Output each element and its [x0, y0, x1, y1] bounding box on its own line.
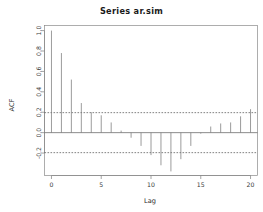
- x-tick-label: 15: [197, 181, 205, 188]
- y-axis: -0.20.00.20.40.60.81.0: [35, 26, 45, 159]
- x-tick-label: 10: [147, 181, 155, 188]
- x-tick-label: 0: [49, 181, 53, 188]
- y-axis-title: ACF: [8, 98, 16, 111]
- y-tick-label: 0.0: [35, 128, 42, 138]
- x-tick-label: 20: [247, 181, 255, 188]
- acf-plot-svg: Series ar.sim ACF Lag -0.20.00.20.40.60.…: [0, 0, 263, 212]
- plot-title: Series ar.sim: [100, 6, 163, 16]
- y-tick-label: 0.2: [35, 107, 42, 117]
- y-tick-label: 0.6: [35, 66, 42, 76]
- y-tick-label: 1.0: [35, 26, 42, 36]
- x-axis: 05101520: [49, 176, 254, 188]
- x-tick-label: 5: [99, 181, 103, 188]
- y-tick-label: 0.8: [35, 46, 42, 56]
- acf-bars: [51, 31, 250, 172]
- acf-plot-canvas: Series ar.sim ACF Lag -0.20.00.20.40.60.…: [0, 0, 263, 212]
- x-axis-title: Lag: [144, 197, 156, 205]
- y-tick-label: 0.4: [35, 87, 42, 97]
- y-tick-label: -0.2: [35, 147, 42, 159]
